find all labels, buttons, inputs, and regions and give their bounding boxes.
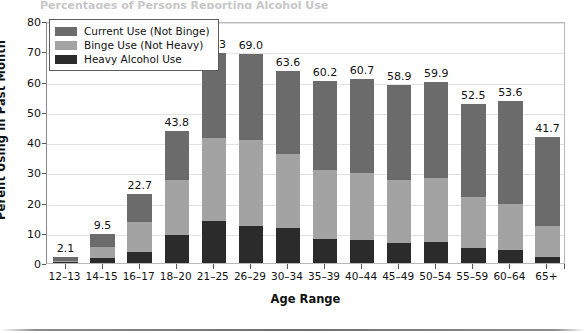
bar-column[interactable]: 53.6	[498, 23, 522, 263]
bar-column[interactable]: 59.9	[424, 23, 448, 263]
stacked-bar[interactable]	[387, 85, 411, 263]
stacked-bar[interactable]	[239, 54, 263, 263]
bar-segment-binge-use[interactable]	[461, 197, 485, 248]
stacked-bar[interactable]	[276, 71, 300, 263]
bar-segment-binge-use[interactable]	[239, 140, 263, 226]
x-axis-title: Age Range	[46, 292, 565, 306]
x-axis-tick-mark	[435, 264, 436, 269]
x-axis-tick-mark	[546, 264, 547, 269]
stacked-bar[interactable]	[313, 81, 337, 263]
bar-segment-current-use[interactable]	[276, 71, 300, 154]
bar-segment-heavy-alcohol-use[interactable]	[90, 258, 114, 263]
x-axis-tick-mark	[324, 264, 325, 269]
bar-segment-binge-use[interactable]	[424, 178, 448, 243]
bar-segment-current-use[interactable]	[239, 54, 263, 140]
bar-segment-binge-use[interactable]	[498, 204, 522, 250]
bar-segment-binge-use[interactable]	[90, 247, 114, 258]
y-axis-tick-label: 0	[1, 259, 41, 270]
bar-column[interactable]: 58.9	[387, 23, 411, 263]
stacked-bar[interactable]	[53, 257, 77, 263]
bar-segment-current-use[interactable]	[313, 81, 337, 170]
bar-column[interactable]: 60.7	[350, 23, 374, 263]
x-axis-tick-mark	[287, 264, 288, 269]
x-axis-tick-label: 65+	[518, 271, 574, 282]
bar-segment-heavy-alcohol-use[interactable]	[424, 242, 448, 263]
bar-segment-current-use[interactable]	[90, 234, 114, 247]
stacked-bar[interactable]	[127, 194, 151, 263]
bar-segment-heavy-alcohol-use[interactable]	[313, 239, 337, 264]
stacked-bar[interactable]	[350, 79, 374, 263]
x-axis-tick-mark	[398, 264, 399, 269]
bar-segment-current-use[interactable]	[498, 101, 522, 204]
legend-item[interactable]: Heavy Alcohol Use	[55, 52, 210, 66]
bar-segment-current-use[interactable]	[165, 131, 189, 181]
bar-segment-heavy-alcohol-use[interactable]	[53, 262, 77, 263]
legend-item-label: Current Use (Not Binge)	[84, 26, 210, 37]
bar-segment-binge-use[interactable]	[127, 222, 151, 253]
y-axis-tick-mark	[42, 173, 46, 174]
page-bottom-rule	[0, 329, 585, 331]
bar-segment-current-use[interactable]	[350, 79, 374, 173]
x-axis-tick-mark	[250, 264, 251, 269]
stacked-bar[interactable]	[461, 104, 485, 263]
x-axis-tick-mark	[102, 264, 103, 269]
bar-segment-binge-use[interactable]	[313, 170, 337, 238]
bar-segment-current-use[interactable]	[535, 137, 559, 227]
bar-segment-heavy-alcohol-use[interactable]	[498, 250, 522, 263]
x-axis-tick-mark	[361, 264, 362, 269]
bar-segment-binge-use[interactable]	[202, 138, 226, 221]
bar-segment-binge-use[interactable]	[165, 180, 189, 235]
y-axis-tick-mark	[42, 143, 46, 144]
x-axis-tick-mark	[213, 264, 214, 269]
bar-segment-binge-use[interactable]	[350, 173, 374, 240]
bar-segment-current-use[interactable]	[424, 82, 448, 178]
stacked-bar[interactable]	[424, 82, 448, 263]
bar-value-label: 2.1	[43, 243, 89, 254]
bar-segment-binge-use[interactable]	[276, 154, 300, 228]
bar-column[interactable]: 52.5	[461, 23, 485, 263]
stacked-bar[interactable]	[165, 131, 189, 263]
bar-segment-heavy-alcohol-use[interactable]	[127, 252, 151, 263]
bar-segment-heavy-alcohol-use[interactable]	[276, 228, 300, 263]
x-axis-tick-mark	[564, 264, 565, 269]
stacked-bar[interactable]	[535, 137, 559, 263]
legend-item[interactable]: Binge Use (Not Heavy)	[55, 38, 210, 52]
bar-segment-current-use[interactable]	[127, 194, 151, 221]
stacked-bar[interactable]	[498, 101, 522, 263]
bar-value-label: 41.7	[524, 123, 570, 134]
legend-item[interactable]: Current Use (Not Binge)	[55, 24, 210, 38]
bar-segment-current-use[interactable]	[53, 257, 77, 261]
bar-value-label: 43.8	[154, 117, 200, 128]
bar-segment-heavy-alcohol-use[interactable]	[461, 248, 485, 263]
bar-segment-binge-use[interactable]	[387, 180, 411, 243]
bar-segment-heavy-alcohol-use[interactable]	[165, 235, 189, 263]
bar-segment-heavy-alcohol-use[interactable]	[239, 226, 263, 263]
stacked-bar[interactable]	[202, 53, 226, 263]
bar-value-label: 59.9	[413, 68, 459, 79]
bar-column[interactable]: 63.6	[276, 23, 300, 263]
bar-segment-heavy-alcohol-use[interactable]	[387, 243, 411, 263]
legend-item-label: Heavy Alcohol Use	[84, 54, 182, 65]
bar-column[interactable]: 60.2	[313, 23, 337, 263]
bar-segment-current-use[interactable]	[461, 104, 485, 197]
y-axis-tick-mark	[42, 22, 46, 23]
bar-value-label: 9.5	[80, 220, 126, 231]
x-axis-tick-mark	[509, 264, 510, 269]
legend-swatch-binge	[55, 41, 77, 50]
y-axis-tick-mark	[42, 204, 46, 205]
bar-segment-heavy-alcohol-use[interactable]	[535, 257, 559, 263]
stacked-bar[interactable]	[90, 234, 114, 263]
y-axis-tick-mark	[42, 113, 46, 114]
bar-segment-heavy-alcohol-use[interactable]	[350, 240, 374, 263]
x-axis-tick-mark	[139, 264, 140, 269]
bar-column[interactable]: 41.7	[535, 23, 559, 263]
y-axis-tick-mark	[42, 234, 46, 235]
bar-segment-current-use[interactable]	[387, 85, 411, 180]
bar-segment-binge-use[interactable]	[53, 261, 77, 263]
legend: Current Use (Not Binge)Binge Use (Not He…	[49, 19, 219, 71]
bar-column[interactable]: 69.0	[239, 23, 263, 263]
clipped-title-strip: Percentages of Persons Reporting Alcohol…	[40, 0, 360, 9]
y-axis-title: Perent Using in Past Month	[0, 40, 8, 220]
bar-segment-heavy-alcohol-use[interactable]	[202, 221, 226, 263]
bar-segment-binge-use[interactable]	[535, 226, 559, 256]
